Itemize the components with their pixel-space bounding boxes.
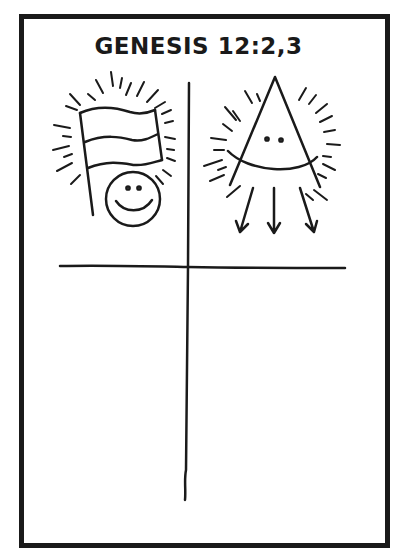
- horizontal-divider: [60, 266, 345, 268]
- flagpole: [80, 113, 93, 215]
- triangle-smile: [228, 151, 317, 169]
- arrows-down-icon: [236, 188, 317, 233]
- worksheet-drawing: [0, 0, 397, 554]
- flag-bottom-edge: [88, 160, 162, 168]
- arrow-right: [300, 188, 317, 232]
- smiley-face-icon: [106, 172, 160, 226]
- arrow-middle: [268, 188, 280, 233]
- flag-top-edge: [80, 108, 155, 114]
- triangle-face-icon: [228, 77, 320, 187]
- triangle-outline: [230, 77, 320, 187]
- vertical-divider: [185, 83, 189, 500]
- flag-icon: [80, 108, 162, 215]
- arrow-left: [236, 188, 253, 232]
- flag-middle-stripe: [85, 134, 158, 142]
